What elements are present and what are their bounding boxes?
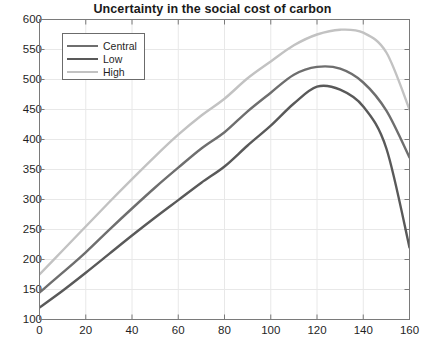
x-tick-label: 100 xyxy=(251,324,291,336)
y-tick-label: 550 xyxy=(8,44,42,55)
y-tick-label: 500 xyxy=(8,74,42,85)
legend-label: High xyxy=(103,67,125,77)
y-tick-label: 450 xyxy=(8,104,42,115)
y-tick-label: 200 xyxy=(8,254,42,265)
y-tick-label: 300 xyxy=(8,194,42,205)
legend-swatch-high xyxy=(67,71,98,73)
x-tick-label: 140 xyxy=(343,324,383,336)
y-tick-label: 600 xyxy=(8,14,42,25)
x-tick-label: 160 xyxy=(390,324,425,336)
chart-legend[interactable]: CentralLowHigh xyxy=(62,33,145,80)
y-tick-label: 150 xyxy=(8,284,42,295)
x-tick-label: 20 xyxy=(66,324,106,336)
x-tick-label: 60 xyxy=(158,324,198,336)
legend-item-central[interactable]: Central xyxy=(67,39,137,52)
page-title: Uncertainty in the social cost of carbon xyxy=(0,2,425,16)
y-tick-label: 100 xyxy=(8,314,42,325)
legend-item-high[interactable]: High xyxy=(67,65,125,78)
x-tick-label: 120 xyxy=(297,324,337,336)
x-tick-label: 0 xyxy=(20,324,60,336)
x-tick-label: 80 xyxy=(205,324,245,336)
legend-label: Low xyxy=(103,54,122,64)
y-tick-label: 250 xyxy=(8,224,42,235)
chart-figure: Uncertainty in the social cost of carbon… xyxy=(0,0,425,348)
legend-swatch-central xyxy=(67,45,98,47)
legend-label: Central xyxy=(103,41,137,51)
legend-swatch-low xyxy=(67,58,98,60)
legend-item-low[interactable]: Low xyxy=(67,52,122,65)
y-tick-label: 350 xyxy=(8,164,42,175)
y-tick-label: 400 xyxy=(8,134,42,145)
x-tick-label: 40 xyxy=(112,324,152,336)
